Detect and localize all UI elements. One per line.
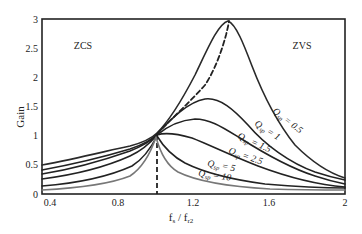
curve-q-5 xyxy=(42,136,345,188)
x-tick-label: 2 xyxy=(343,197,348,208)
x-tick-label: 0.8 xyxy=(112,197,125,208)
x-tick-label: 1.2 xyxy=(187,197,200,208)
y-tick-label: 2.5 xyxy=(26,43,39,54)
y-tick-label: 0 xyxy=(33,189,38,200)
y-tick-label: 2 xyxy=(33,72,38,83)
x-axis-title: fs / fr2 xyxy=(169,211,194,225)
y-axis: 0 0.5 1 1.5 2 2.5 3 xyxy=(26,14,39,200)
y-axis-title: Gain xyxy=(14,106,26,128)
x-axis: 0.4 0.8 1.2 1.6 2 xyxy=(44,197,348,208)
x-tick-label: 1.6 xyxy=(263,197,276,208)
resonant-gain-chart: 0 0.5 1 1.5 2 2.5 3 0.4 0.8 1.2 1.6 2 Ga… xyxy=(0,0,362,234)
curve-labels: Qsp= 0.5 Qsp= 1 Qsp= 1.5 Qsp= 2.5 Qsp= 5… xyxy=(198,106,305,184)
y-tick-label: 0.5 xyxy=(26,159,39,170)
zcs-region-label: ZCS xyxy=(74,40,92,51)
y-tick-label: 3 xyxy=(33,14,38,25)
x-tick-label: 0.4 xyxy=(44,197,57,208)
y-tick-label: 1.5 xyxy=(26,101,39,112)
zvs-region-label: ZVS xyxy=(293,40,312,51)
y-tick-label: 1 xyxy=(33,130,38,141)
